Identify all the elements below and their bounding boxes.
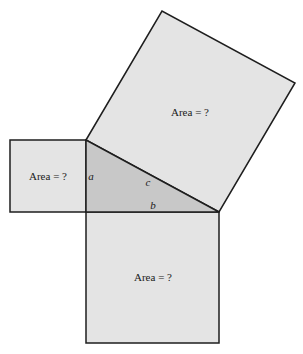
- pythagorean-diagram: Area = ? Area = ? Area = ? a c b: [0, 0, 303, 354]
- side-c-label: c: [146, 176, 151, 188]
- side-b-label: b: [150, 199, 156, 211]
- square-a-area-label: Area = ?: [29, 170, 67, 182]
- side-a-label: a: [88, 170, 94, 182]
- square-b-area-label: Area = ?: [134, 271, 172, 283]
- square-c-area-label: Area = ?: [171, 106, 209, 118]
